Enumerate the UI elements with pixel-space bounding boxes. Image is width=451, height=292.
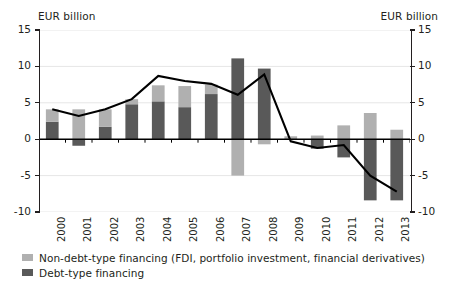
legend-item-non-debt: Non-debt-type financing (FDI, portfolio … [22, 250, 442, 265]
bar-debt-2008 [258, 69, 271, 140]
legend-label-non-debt: Non-debt-type financing (FDI, portfolio … [39, 252, 425, 264]
bar-non-debt-2005 [178, 86, 191, 107]
x-axis-label-2002: 2002 [110, 217, 120, 242]
bar-debt-2011 [337, 139, 350, 157]
bar-non-debt-2013 [390, 130, 403, 139]
y-tick-label-left-15: 15 [7, 24, 31, 35]
x-axis-label-2001: 2001 [83, 217, 93, 242]
y-tick-label-left-5: 5 [7, 97, 31, 108]
bar-non-debt-2004 [152, 85, 165, 101]
legend-label-debt: Debt-type financing [39, 267, 144, 279]
bar-debt-2001 [72, 139, 85, 146]
y-tick-label-right-0: 0 [418, 133, 444, 144]
y-tick-label-left-10: 10 [7, 60, 31, 71]
bar-debt-2004 [152, 101, 165, 139]
y-tick-label-right-15: 15 [418, 24, 444, 35]
y-axis-left [39, 30, 40, 212]
x-axis-label-2006: 2006 [216, 217, 226, 242]
bar-debt-2000 [46, 122, 59, 139]
legend-item-debt: Debt-type financing [22, 265, 442, 280]
y-axis-right [411, 30, 412, 212]
x-axis-label-2009: 2009 [295, 217, 305, 242]
y-axis-unit-label-right: EUR billion [381, 10, 438, 22]
bar-non-debt-2007 [231, 139, 244, 175]
legend-swatch-non-debt [22, 254, 33, 261]
bar-non-debt-2002 [99, 109, 112, 126]
x-axis-label-2008: 2008 [269, 217, 279, 242]
y-tick-label-right-10: 10 [418, 60, 444, 71]
y-tick-label-right--10: -10 [418, 206, 444, 217]
y-tick-label-left-0: 0 [7, 133, 31, 144]
bar-debt-2007 [231, 58, 244, 139]
y-tick-label-right-5: 5 [418, 97, 444, 108]
y-tick-label-left--10: -10 [7, 206, 31, 217]
x-axis-label-2013: 2013 [401, 217, 411, 242]
bar-debt-2002 [99, 127, 112, 139]
x-axis-label-2003: 2003 [136, 217, 146, 242]
x-axis-label-2012: 2012 [375, 217, 385, 242]
x-axis-label-2005: 2005 [189, 217, 199, 242]
bar-non-debt-2011 [337, 125, 350, 139]
x-axis-label-2004: 2004 [163, 217, 173, 242]
x-axis-label-2000: 2000 [57, 217, 67, 242]
y-axis-unit-label-left: EUR billion [38, 10, 95, 22]
chart-container: EUR billion EUR billion 151510105500-5-5… [0, 0, 451, 292]
bar-debt-2003 [125, 104, 138, 139]
bar-non-debt-2012 [364, 113, 377, 139]
x-axis-label-2007: 2007 [242, 217, 252, 242]
plot-area [39, 30, 410, 212]
chart-svg [39, 30, 410, 212]
bar-debt-2005 [178, 107, 191, 139]
y-tick-label-right--5: -5 [418, 170, 444, 181]
x-axis-label-2011: 2011 [348, 217, 358, 242]
x-axis-label-2010: 2010 [322, 217, 332, 242]
chart-legend: Non-debt-type financing (FDI, portfolio … [22, 250, 442, 280]
y-tick-label-left--5: -5 [7, 170, 31, 181]
bar-debt-2006 [205, 94, 218, 139]
legend-swatch-debt [22, 269, 33, 276]
